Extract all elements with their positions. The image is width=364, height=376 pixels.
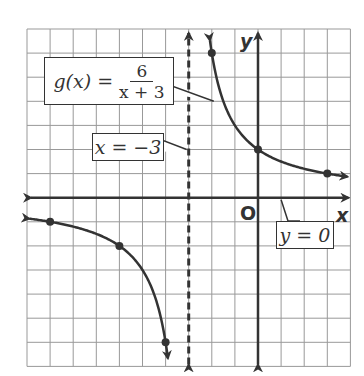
horizontal-asymptote-text: y = 0 — [280, 224, 331, 246]
origin-label: O — [240, 202, 256, 224]
numerator: 6 — [130, 61, 153, 82]
denominator: x + 3 — [119, 82, 164, 102]
horizontal-asymptote-label: y = 0 — [276, 221, 334, 249]
y-axis-label: y — [240, 30, 252, 52]
fraction: 6 x + 3 — [119, 61, 164, 102]
graph-figure: g(x) = 6 x + 3 x = −3 y = 0 y x O — [0, 0, 364, 376]
function-label: g(x) = 6 x + 3 — [44, 57, 174, 105]
vertical-asymptote-label: x = −3 — [92, 133, 164, 161]
vertical-asymptote-text: x = −3 — [95, 136, 162, 158]
x-axis-label: x — [336, 204, 348, 226]
function-lhs: g(x) = — [53, 70, 113, 92]
